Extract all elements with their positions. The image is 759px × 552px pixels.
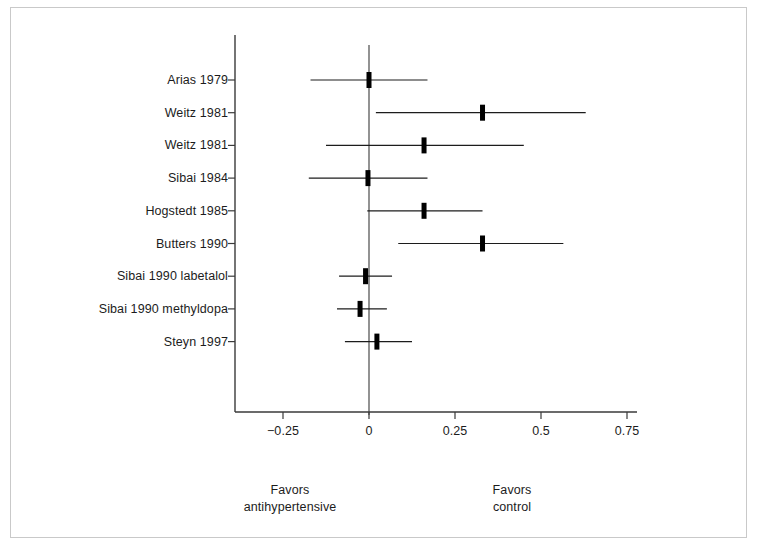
favors-antihypertensive-line1: Favors	[244, 482, 337, 499]
favors-control-line1: Favors	[493, 482, 532, 499]
forest-plot-canvas	[0, 0, 759, 552]
favors-antihypertensive-label: Favors antihypertensive	[244, 482, 337, 516]
effect-estimate-marker	[480, 236, 485, 252]
forest-row	[326, 137, 524, 153]
study-label: Weitz 1981	[165, 106, 228, 120]
effect-estimate-marker	[422, 137, 427, 153]
forest-row	[345, 334, 412, 350]
forest-row	[311, 72, 428, 88]
x-tick-label: 0.5	[532, 424, 550, 438]
x-tick-label: 0.75	[615, 424, 640, 438]
study-label: Sibai 1984	[168, 171, 228, 185]
favors-control-label: Favors control	[493, 482, 532, 516]
effect-estimate-marker	[480, 105, 485, 121]
study-label: Hogstedt 1985	[145, 204, 228, 218]
forest-plot-figure: Arias 1979Weitz 1981Weitz 1981Sibai 1984…	[0, 0, 759, 552]
forest-row	[339, 268, 392, 284]
x-tick-label: −0.25	[267, 424, 299, 438]
study-label: Sibai 1990 methyldopa	[99, 302, 228, 316]
data-rows-group	[309, 72, 586, 350]
effect-estimate-marker	[358, 301, 363, 317]
forest-row	[398, 236, 563, 252]
study-label: Steyn 1997	[164, 335, 228, 349]
forest-row	[367, 203, 482, 219]
x-tick-label: 0.25	[443, 424, 468, 438]
forest-row	[309, 170, 428, 186]
effect-estimate-marker	[365, 170, 370, 186]
effect-estimate-marker	[363, 268, 368, 284]
forest-row	[376, 105, 586, 121]
x-tick-label: 0	[365, 424, 372, 438]
favors-control-line2: control	[493, 499, 532, 516]
study-label: Arias 1979	[167, 73, 228, 87]
study-label: Sibai 1990 labetalol	[117, 269, 228, 283]
effect-estimate-marker	[374, 334, 379, 350]
forest-row	[337, 301, 387, 317]
effect-estimate-marker	[367, 72, 372, 88]
favors-antihypertensive-line2: antihypertensive	[244, 499, 337, 516]
effect-estimate-marker	[422, 203, 427, 219]
study-label: Butters 1990	[156, 237, 228, 251]
study-label: Weitz 1981	[165, 138, 228, 152]
axes-group	[228, 35, 637, 419]
